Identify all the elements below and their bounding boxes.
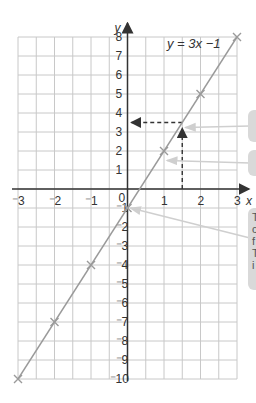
- x-tick-label: ⁻3: [12, 194, 25, 208]
- y-tick-label: ⁻4: [116, 258, 129, 272]
- x-tick-label: ⁻2: [49, 194, 62, 208]
- x-tick-label: 2: [198, 194, 205, 208]
- line-graph: xy0⁻3⁻2⁻112387654321⁻1⁻2⁻3⁻4⁻5⁻6⁻7⁻8⁻9⁻1…: [0, 0, 256, 403]
- y-tick-label: ⁻6: [116, 296, 129, 310]
- y-tick-label: 3: [116, 125, 123, 139]
- y-tick-label: ⁻2: [116, 220, 129, 234]
- annotation-note-3: T c f T i: [248, 208, 256, 290]
- annotation-note-2: [248, 150, 256, 176]
- y-tick-label: 6: [116, 68, 123, 82]
- x-tick-label: 3: [234, 194, 241, 208]
- y-tick-label: 4: [116, 106, 123, 120]
- y-tick-label: ⁻8: [116, 334, 129, 348]
- y-tick-label: ⁻10: [110, 372, 130, 386]
- y-tick-label: ⁻9: [116, 353, 129, 367]
- equation-label: y = 3x −1: [166, 36, 220, 51]
- annotation-note-1: [248, 110, 256, 142]
- y-tick-label: 7: [116, 49, 123, 63]
- y-tick-label: ⁻5: [116, 277, 129, 291]
- y-tick-label: ⁻3: [116, 239, 129, 253]
- y-tick-label: 5: [116, 87, 123, 101]
- y-tick-label: 8: [116, 30, 123, 44]
- annotation-pointer-line: [131, 208, 251, 238]
- x-tick-label: 1: [161, 194, 168, 208]
- y-tick-label: 1: [116, 163, 123, 177]
- x-axis-label: x: [245, 194, 253, 208]
- y-tick-label: 2: [116, 144, 123, 158]
- annotation-pointer-line: [167, 161, 250, 164]
- annotation-pointer-line: [185, 126, 250, 128]
- x-tick-label: ⁻1: [85, 194, 98, 208]
- y-tick-label: ⁻7: [116, 315, 129, 329]
